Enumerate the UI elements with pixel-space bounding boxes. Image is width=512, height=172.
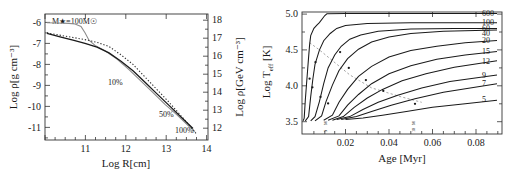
inline-annotation-value-2: 10 bbox=[411, 128, 416, 132]
left-panel-density-profile: 11 12 13 14 -6 -7 -8 -9 -10 -11 18 17 16… bbox=[0, 0, 256, 172]
left-xtick-3: 14 bbox=[202, 143, 212, 154]
left-xtick-1: 12 bbox=[121, 143, 131, 154]
right-xtick-1: 0.04 bbox=[380, 137, 398, 148]
curve-mass-5 bbox=[346, 100, 498, 119]
right-curve-label-20: 20 bbox=[482, 36, 490, 45]
left-ytick-0: -6 bbox=[33, 17, 41, 28]
left-xticks bbox=[45, 14, 207, 140]
right-ytick-0: 3.5 bbox=[286, 116, 299, 127]
left-ytick-right-0: 18 bbox=[212, 14, 222, 25]
left-ytick-5: -11 bbox=[28, 122, 41, 133]
left-yticks-right bbox=[203, 20, 208, 128]
curve-mass-9 bbox=[337, 75, 497, 119]
left-panel-svg: 11 12 13 14 -6 -7 -8 -9 -10 -11 18 17 16… bbox=[0, 0, 256, 172]
curve-label-50-percent: 50% bbox=[159, 110, 174, 119]
right-xaxis-label: Age [Myr] bbox=[378, 152, 425, 164]
right-ytick-2: 4.5 bbox=[286, 44, 299, 55]
left-ytick-right-2: 16 bbox=[212, 50, 222, 61]
curve-mass-15 bbox=[328, 51, 497, 120]
right-curve-label-7: 7 bbox=[482, 79, 486, 88]
left-ytick-right-1: 17 bbox=[212, 32, 222, 43]
curve-label-10-percent: 10% bbox=[108, 78, 123, 87]
curve-mass-40 bbox=[315, 30, 497, 121]
curve-mass-20 bbox=[324, 41, 497, 121]
inline-annotation-m-2: M bbox=[411, 121, 416, 125]
right-xtick-3: 0.08 bbox=[467, 137, 485, 148]
curve-mass-100 bbox=[305, 23, 497, 121]
right-yaxis-label: Log Teff [K] bbox=[260, 46, 275, 99]
curve-label-100-percent: 100% bbox=[175, 126, 194, 135]
right-curves bbox=[303, 13, 497, 121]
left-ytick-right-3: 15 bbox=[212, 68, 222, 79]
left-ytick-right-4: 14 bbox=[212, 86, 222, 97]
left-yaxis-label-right: Log ρ[GeV cm⁻³] bbox=[233, 37, 245, 116]
left-xtick-2: 13 bbox=[161, 143, 171, 154]
right-yaxis-label-main: Log T bbox=[260, 71, 272, 98]
right-panel-teff-evolution: 0.02 0.04 0.06 0.08 3.5 4.0 4.5 5.0 Age … bbox=[256, 0, 512, 172]
right-xtick-2: 0.06 bbox=[424, 137, 442, 148]
right-curve-label-5: 5 bbox=[482, 95, 486, 104]
left-ytick-3: -9 bbox=[33, 80, 41, 91]
left-yaxis-label: Log ρ[g cm⁻³] bbox=[7, 45, 19, 109]
figure-container: 11 12 13 14 -6 -7 -8 -9 -10 -11 18 17 16… bbox=[0, 0, 512, 172]
right-xtick-0: 0.02 bbox=[337, 137, 355, 148]
left-ytick-4: -10 bbox=[28, 101, 41, 112]
left-xtick-0: 11 bbox=[81, 143, 91, 154]
left-yticks bbox=[45, 22, 50, 137]
left-panel-annotation: M★=100M☉ bbox=[52, 17, 97, 26]
inline-annotation-m-1: M bbox=[323, 121, 328, 125]
right-ytick-1: 4.0 bbox=[286, 80, 299, 91]
left-ytick-right-6: 12 bbox=[212, 122, 222, 133]
right-curve-label-12: 12 bbox=[482, 57, 490, 66]
right-curve-label-15: 15 bbox=[482, 47, 490, 56]
right-ytick-3: 5.0 bbox=[286, 8, 299, 19]
inline-annotation-value-1: 9 bbox=[323, 130, 328, 132]
left-ytick-2: -8 bbox=[33, 59, 41, 70]
left-ytick-right-5: 13 bbox=[212, 104, 222, 115]
left-ytick-1: -7 bbox=[33, 38, 41, 49]
right-panel-svg: 0.02 0.04 0.06 0.08 3.5 4.0 4.5 5.0 Age … bbox=[256, 0, 512, 172]
left-xaxis-label: Log R[cm] bbox=[102, 157, 151, 169]
right-yaxis-label-unit: [K] bbox=[260, 46, 272, 64]
